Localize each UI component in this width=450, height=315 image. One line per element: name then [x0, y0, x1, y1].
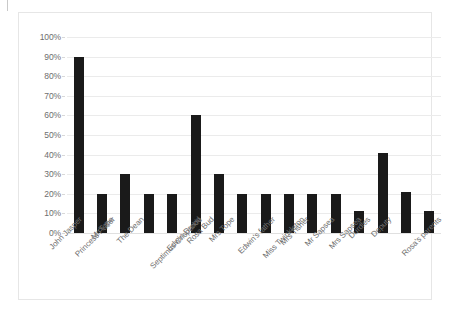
y-axis-tick-label: 60% [44, 110, 61, 120]
y-axis-tick-label: 80% [44, 71, 61, 81]
y-axis-tick-label: 90% [44, 52, 61, 62]
x-axis-category-label: Mr Tope [90, 215, 116, 241]
bar [74, 57, 84, 233]
bar-series [67, 37, 441, 233]
x-axis-category-labels: John JasperPrincess PufferMr TopeThe Dea… [19, 209, 431, 299]
y-axis-tick-label: 40% [44, 150, 61, 160]
y-axis-tick-mark [62, 174, 65, 175]
chart-frame: 0%10%20%30%40%50%60%70%80%90%100% John J… [18, 12, 432, 300]
y-axis-tick-mark [62, 115, 65, 116]
page-corner-tick [7, 0, 8, 11]
x-axis-category-label: The Dean [115, 215, 146, 246]
plot-area [67, 37, 441, 233]
y-axis-tick-mark [62, 135, 65, 136]
x-axis-category-label: Rosa's parents [400, 215, 443, 258]
y-axis-tick-labels: 0%10%20%30%40%50%60%70%80%90%100% [37, 37, 65, 233]
y-axis-tick-mark [62, 37, 65, 38]
y-axis-tick-label: 50% [44, 130, 61, 140]
y-axis-tick-mark [62, 57, 65, 58]
y-axis-tick-label: 30% [44, 169, 61, 179]
y-axis-tick-mark [62, 96, 65, 97]
y-axis-tick-mark [62, 76, 65, 77]
y-axis-tick-label: 70% [44, 91, 61, 101]
y-axis-tick-mark [62, 194, 65, 195]
y-axis-tick-label: 100% [40, 32, 61, 42]
y-axis-tick-label: 20% [44, 189, 61, 199]
x-axis-category-label: Deputy [369, 215, 393, 239]
y-axis-tick-mark [62, 155, 65, 156]
